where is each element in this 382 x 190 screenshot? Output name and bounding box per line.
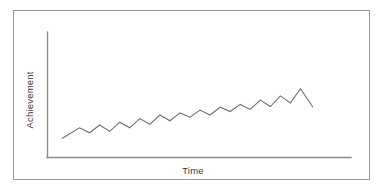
data-series-group — [62, 89, 313, 139]
figure-root: Achievement Time — [0, 0, 382, 190]
chart-canvas: Achievement Time — [0, 0, 382, 190]
x-axis-label: Time — [182, 165, 204, 176]
achievement-line — [62, 89, 313, 139]
y-axis-label: Achievement — [24, 71, 35, 128]
axes-group — [47, 32, 351, 158]
